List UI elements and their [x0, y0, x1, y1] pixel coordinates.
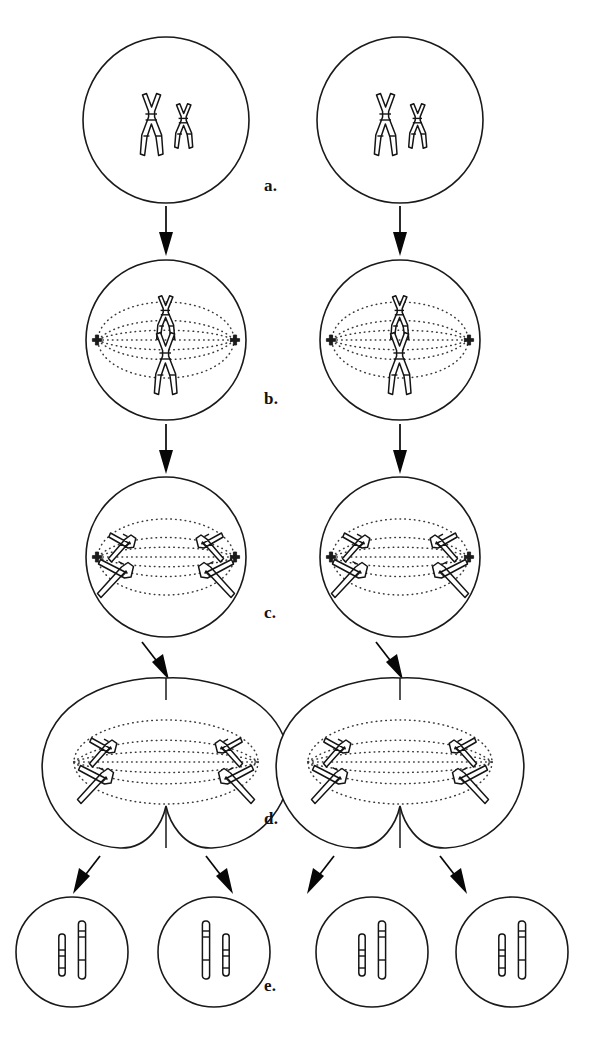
- arrow-metaphase-to-anaphase-left: [159, 424, 173, 474]
- cell-telophase-left[interactable]: [42, 678, 290, 848]
- row-prophase: [83, 37, 483, 256]
- cell-prophase-right[interactable]: [317, 37, 483, 203]
- cell-anaphase-right[interactable]: [320, 477, 480, 637]
- arrow-metaphase-to-anaphase-right: [393, 424, 407, 474]
- stage-label-b: b.: [264, 389, 278, 409]
- arrow-telophase-split-right-column: [307, 856, 467, 894]
- cell-anaphase-left[interactable]: [86, 477, 246, 637]
- stage-label-e: e.: [264, 976, 276, 996]
- row-metaphase: [86, 260, 480, 474]
- daughter-cell-4[interactable]: [456, 897, 568, 1007]
- row-telophase: [42, 678, 524, 894]
- mitosis-diagram: a. b. c. d. e.: [0, 0, 590, 1041]
- daughter-cell-2[interactable]: [158, 897, 270, 1007]
- arrow-anaphase-to-telophase-right: [376, 642, 403, 680]
- row-anaphase: [86, 477, 480, 680]
- arrow-anaphase-to-telophase-left: [142, 642, 169, 680]
- stage-label-c: c.: [264, 603, 276, 623]
- row-daughter-cells: [16, 897, 568, 1007]
- cell-metaphase-left[interactable]: [86, 260, 246, 420]
- diagram-canvas: [0, 0, 590, 1041]
- cell-telophase-right[interactable]: [276, 678, 524, 848]
- daughter-cell-1[interactable]: [16, 897, 128, 1007]
- arrow-prophase-to-metaphase-left: [159, 206, 173, 256]
- daughter-cell-3[interactable]: [316, 897, 428, 1007]
- stage-label-d: d.: [264, 809, 278, 829]
- arrow-telophase-split-left-column: [73, 856, 233, 894]
- cell-prophase-left[interactable]: [83, 37, 249, 203]
- cell-metaphase-right[interactable]: [320, 260, 480, 420]
- arrow-prophase-to-metaphase-right: [393, 206, 407, 256]
- stage-label-a: a.: [264, 176, 277, 196]
